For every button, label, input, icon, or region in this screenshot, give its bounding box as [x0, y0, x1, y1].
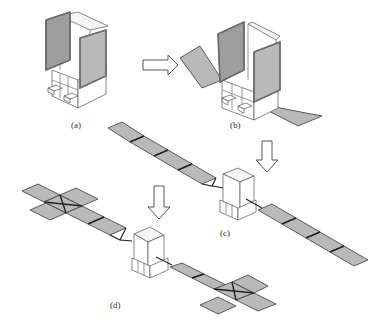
stage-label-b: (b)	[230, 120, 241, 130]
arrow-right-icon	[143, 55, 178, 75]
stage-label-c: (c)	[220, 228, 230, 238]
stage-a-satellite	[46, 12, 108, 108]
deployment-diagram	[0, 0, 380, 333]
arrow-down-icon	[256, 141, 278, 172]
arrow-down-icon	[148, 186, 170, 219]
stage-b-satellite	[180, 22, 322, 126]
stage-label-d: (d)	[110, 300, 121, 310]
stage-label-a: (a)	[71, 120, 81, 130]
